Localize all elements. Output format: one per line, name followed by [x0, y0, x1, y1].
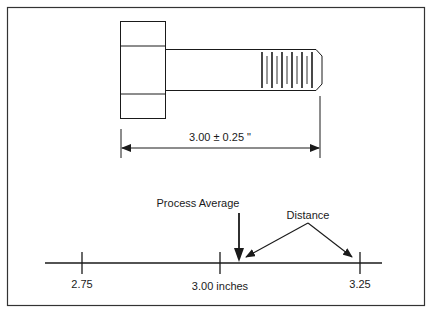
figure-frame — [8, 8, 425, 306]
number-line — [45, 252, 382, 274]
distance-label: Distance — [287, 209, 330, 221]
bolt-threads — [262, 52, 312, 88]
process-average-arrow-icon — [234, 213, 244, 262]
process-average-label: Process Average — [157, 197, 240, 209]
bolt-drawing — [121, 22, 323, 119]
bolt-shank — [166, 50, 323, 91]
distance-arrows-icon — [246, 223, 352, 257]
tick-label-2-75: 2.75 — [71, 278, 92, 290]
diagram-canvas: 3.00 ± 0.25 " 2.75 3.00 inches 3.25 Proc… — [0, 0, 430, 313]
dimension-label: 3.00 ± 0.25 " — [189, 131, 251, 143]
tick-label-3-00: 3.00 inches — [192, 280, 249, 292]
tick-label-3-25: 3.25 — [349, 278, 370, 290]
length-dimension — [121, 96, 320, 158]
bolt-head — [121, 22, 166, 119]
